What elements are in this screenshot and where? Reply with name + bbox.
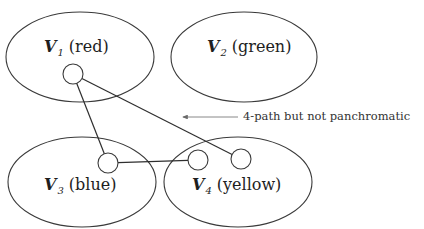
partition-color-name: (yellow): [217, 175, 282, 194]
vertex-a-in-v1: [63, 64, 83, 84]
graph-edges: [77, 79, 232, 163]
partition-ellipse-v1: [6, 12, 154, 102]
partition-label-v4: V4(yellow): [192, 177, 281, 193]
vertex-c-in-v4: [188, 150, 208, 170]
partition-symbol: V: [207, 37, 219, 56]
partition-subscript: 4: [205, 185, 211, 196]
partition-label-v2: V2(green): [207, 39, 291, 55]
partition-symbol: V: [44, 175, 56, 194]
vertex-d-in-v4: [231, 149, 251, 169]
partition-color-name: (red): [69, 37, 109, 56]
edge-a-b: [77, 83, 105, 153]
annotation-label: 4-path but not panchromatic: [243, 111, 410, 123]
edge-a-d: [82, 79, 232, 155]
edge-b-c: [118, 160, 188, 162]
partition-subscript: 1: [57, 47, 63, 58]
partition-label-v1: V1(red): [44, 39, 109, 55]
partition-subscript: 2: [220, 47, 226, 58]
partition-symbol: V: [44, 37, 56, 56]
diagram-canvas: V1(red) V2(green) V3(blue) V4(yellow) 4-…: [0, 0, 424, 229]
partition-color-name: (green): [232, 37, 292, 56]
partition-symbol: V: [192, 175, 204, 194]
vertex-b-in-v3: [98, 153, 118, 173]
graph-vertices: [63, 64, 251, 173]
partition-label-v3: V3(blue): [44, 177, 116, 193]
partition-color-name: (blue): [69, 175, 117, 194]
partition-ellipse-v2: [171, 12, 317, 102]
partition-subscript: 3: [57, 185, 63, 196]
